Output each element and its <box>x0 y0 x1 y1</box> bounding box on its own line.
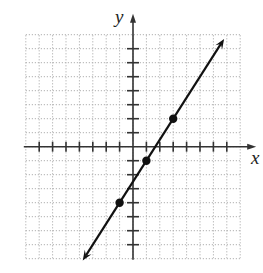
y-axis-label: y <box>113 6 124 27</box>
line-arrow-start-icon <box>83 250 92 261</box>
y-axis-arrow-icon <box>130 14 136 23</box>
coordinate-plane: y x <box>0 0 263 273</box>
data-point <box>142 157 150 165</box>
data-point <box>115 199 123 207</box>
data-point <box>169 115 177 123</box>
x-axis-label: x <box>250 147 260 168</box>
axes <box>24 14 256 260</box>
line-arrow-end-icon <box>215 39 224 50</box>
line-series <box>83 39 224 261</box>
